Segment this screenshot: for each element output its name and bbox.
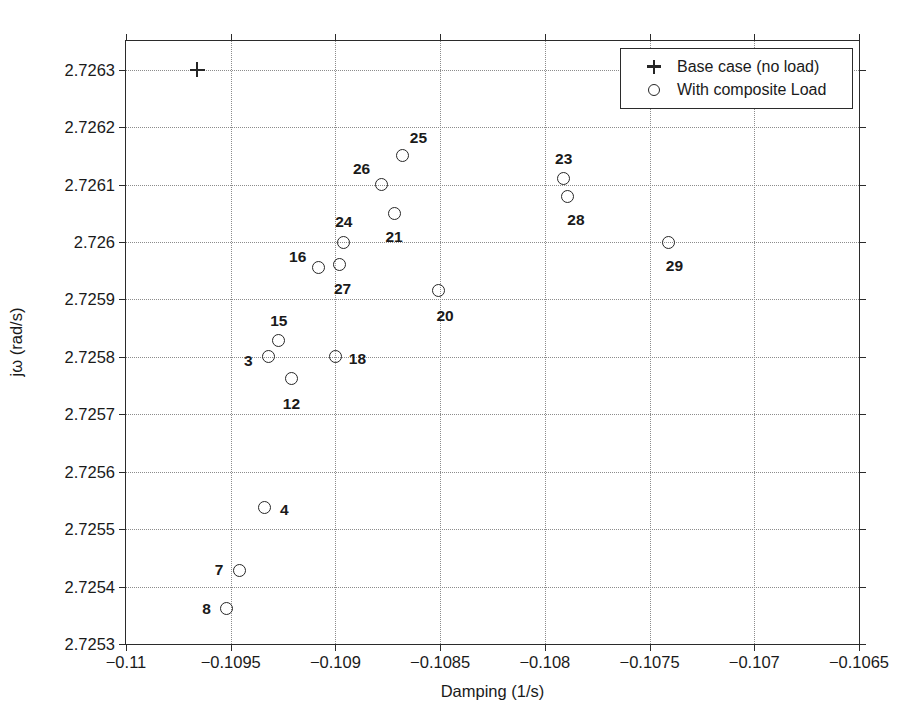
chart-legend: Base case (no load)With composite Load [620,48,853,109]
x-axis-tick-label: −0.1095 [201,653,261,672]
data-point-label: 7 [215,561,224,579]
circle-marker [375,178,388,191]
y-axis-tick-label: 2.7262 [65,118,115,137]
scatter-plot-figure: −0.11−0.1095−0.109−0.1085−0.108−0.1075−0… [0,0,919,724]
circle-marker [432,284,445,297]
circle-marker [396,149,409,162]
x-axis-tick-label: −0.1085 [410,653,470,672]
y-axis-tick [119,242,126,243]
y-axis-tick [859,242,866,243]
data-point-label: 20 [436,307,453,325]
grid-line-vertical [545,41,546,644]
legend-entry-label: Base case (no load) [677,58,819,76]
circle-marker [631,81,677,99]
circle-marker [333,258,346,271]
plus-marker [190,62,205,77]
x-axis-tick [231,644,232,651]
y-axis-title: jω (rad/s) [7,308,26,377]
data-point-label: 26 [353,160,370,178]
y-axis-tick [119,185,126,186]
grid-line-vertical [231,41,232,644]
circle-marker [662,236,675,249]
y-axis-tick [859,587,866,588]
circle-marker [272,334,285,347]
x-axis-tick-label: −0.107 [729,653,780,672]
y-axis-tick [119,70,126,71]
y-axis-tick [859,357,866,358]
data-point-label: 12 [283,395,300,413]
data-point-label: 24 [335,213,352,231]
y-axis-tick-label: 2.7257 [65,405,115,424]
x-axis-tick [650,644,651,651]
y-axis-tick [119,644,126,645]
y-axis-tick [859,299,866,300]
circle-marker [337,236,350,249]
y-axis-tick [119,587,126,588]
data-point-label: 4 [280,501,289,519]
x-axis-tick [650,34,651,41]
circle-marker [388,207,401,220]
legend-entry-label: With composite Load [677,81,826,99]
data-point-label: 16 [289,248,306,266]
y-axis-tick-label: 2.7254 [65,577,115,596]
y-axis-tick-label: 2.7253 [65,635,115,654]
y-axis-tick [119,472,126,473]
x-axis-tick [859,34,860,41]
y-axis-tick-label: 2.726 [74,233,115,252]
y-axis-tick [119,529,126,530]
data-point-label: 23 [555,150,572,168]
x-axis-tick [335,34,336,41]
x-axis-title: Damping (1/s) [125,682,860,701]
y-axis-tick-label: 2.7259 [65,290,115,309]
x-axis-tick [335,644,336,651]
data-point-label: 25 [410,129,427,147]
y-axis-tick [859,644,866,645]
x-axis-tick-label: −0.108 [519,653,570,672]
circle-marker [329,350,342,363]
y-axis-tick [119,357,126,358]
x-axis-tick-label: −0.11 [106,653,147,672]
data-point-label: 21 [385,228,402,246]
grid-line-vertical [754,41,755,644]
grid-line-horizontal [126,357,859,358]
x-axis-tick [754,34,755,41]
grid-line-horizontal [126,472,859,473]
x-axis-tick [126,644,127,651]
grid-line-horizontal [126,587,859,588]
y-axis-tick-label: 2.7256 [65,462,115,481]
y-axis-tick [859,472,866,473]
grid-line-vertical [335,41,336,644]
circle-marker [312,261,325,274]
y-axis-tick [859,529,866,530]
circle-marker [285,372,298,385]
grid-line-horizontal [126,185,859,186]
legend-entry: Base case (no load) [631,55,842,78]
circle-marker [561,190,574,203]
y-axis-tick [119,299,126,300]
grid-line-vertical [650,41,651,644]
y-axis-tick-label: 2.7263 [65,60,115,79]
grid-line-horizontal [126,414,859,415]
plus-marker [631,58,677,76]
y-axis-tick [859,414,866,415]
legend-entry: With composite Load [631,78,842,101]
circle-marker [262,350,275,363]
y-axis-tick [859,70,866,71]
x-axis-tick [859,644,860,651]
plot-area: −0.11−0.1095−0.109−0.1085−0.108−0.1075−0… [125,40,860,645]
grid-line-horizontal [126,299,859,300]
circle-marker [557,172,570,185]
x-axis-tick-label: −0.1065 [829,653,889,672]
y-axis-tick-label: 2.7258 [65,347,115,366]
data-point-label: 18 [349,350,366,368]
grid-line-horizontal [126,529,859,530]
y-axis-tick [119,127,126,128]
y-axis-tick [859,127,866,128]
x-axis-tick [545,34,546,41]
x-axis-tick [545,644,546,651]
grid-line-horizontal [126,127,859,128]
y-axis-tick [859,185,866,186]
circle-marker [258,501,271,514]
data-point-label: 15 [270,312,287,330]
circle-marker [233,564,246,577]
